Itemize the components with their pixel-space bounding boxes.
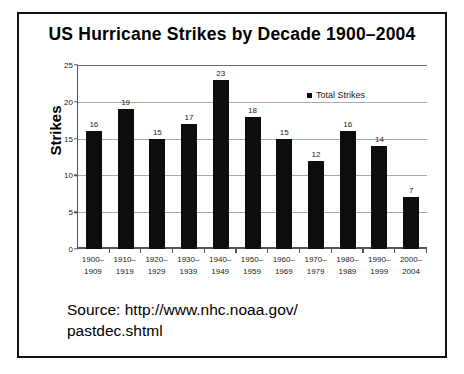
x-tick-mark [140,249,141,253]
x-tick-mark [267,249,268,253]
x-tick-mark [109,249,110,253]
x-tick-mark [394,249,395,253]
bars-layer: 161915172318151216147 [78,65,427,249]
bar[interactable] [403,197,419,249]
x-axis-label-line: 1989 [332,266,364,278]
x-axis-label-line: 1979 [300,266,332,278]
x-tick-mark [299,249,300,253]
bar[interactable] [371,146,387,249]
y-tick-label: 5 [69,208,73,217]
chart-figure: US Hurricane Strikes by Decade 1900–2004… [17,12,447,358]
x-axis-label-line: 1910– [109,254,141,266]
x-axis-label: 1950–1959 [236,254,268,277]
x-axis-label-line: 1959 [236,266,268,278]
bar-slot: 15 [268,65,300,249]
x-axis-labels: 1900–19091910–19191920–19291930–19391940… [77,254,427,277]
bar-slot: 12 [300,65,332,249]
bar-value-label: 12 [300,150,332,159]
x-axis-label-line: 1970– [300,254,332,266]
bar-value-label: 7 [395,186,427,195]
plot-area: 0510152025 161915172318151216147 [77,65,427,249]
x-axis-label: 1980–1989 [332,254,364,277]
source-caption: Source: http://www.nhc.noaa.gov/ pastdec… [67,299,407,341]
x-axis-label: 1910–1919 [109,254,141,277]
bar[interactable] [308,161,324,249]
bar-value-label: 16 [332,120,364,129]
bar-value-label: 23 [205,69,237,78]
chart-title: US Hurricane Strikes by Decade 1900–2004 [19,24,445,45]
bar-slot: 18 [237,65,269,249]
bar-slot: 15 [141,65,173,249]
x-axis-label-line: 1990– [363,254,395,266]
x-tick-mark [235,249,236,253]
bar-value-label: 15 [141,128,173,137]
x-tick-mark [172,249,173,253]
x-axis-label-line: 2004 [395,266,427,278]
x-axis-label-line: 1960– [268,254,300,266]
x-axis-label-line: 1980– [332,254,364,266]
bar-value-label: 15 [268,128,300,137]
x-axis-label-line: 1929 [141,266,173,278]
bar[interactable] [213,80,229,249]
x-axis-label-line: 1909 [77,266,109,278]
x-tick-mark [426,249,427,253]
bar-slot: 14 [364,65,396,249]
bar-value-label: 17 [173,113,205,122]
x-axis-label: 1930–1939 [172,254,204,277]
bar-slot: 7 [395,65,427,249]
x-axis-label-line: 1920– [141,254,173,266]
y-tick-label: 25 [64,61,73,70]
bar-value-label: 19 [110,98,142,107]
x-axis-label-line: 1950– [236,254,268,266]
x-axis-label: 1990–1999 [363,254,395,277]
x-axis-label-line: 1969 [268,266,300,278]
x-axis-label-line: 1949 [204,266,236,278]
x-axis-label-line: 1940– [204,254,236,266]
bar-slot: 16 [332,65,364,249]
bar[interactable] [149,139,165,249]
bar[interactable] [340,131,356,249]
x-axis-label-line: 1919 [109,266,141,278]
x-axis-label-line: 2000– [395,254,427,266]
x-axis-label-line: 1999 [363,266,395,278]
y-tick-label: 15 [64,134,73,143]
y-tick-label: 20 [64,97,73,106]
x-tick-mark [362,249,363,253]
x-tick-mark [331,249,332,253]
bar-slot: 19 [110,65,142,249]
x-axis-label: 1970–1979 [300,254,332,277]
source-line-1: Source: http://www.nhc.noaa.gov/ [67,299,407,320]
x-axis-label-line: 1900– [77,254,109,266]
bar[interactable] [181,124,197,249]
x-axis-label: 1900–1909 [77,254,109,277]
x-axis-label: 1960–1969 [268,254,300,277]
x-axis-label-line: 1930– [172,254,204,266]
bar[interactable] [118,109,134,249]
bar-value-label: 14 [364,135,396,144]
bar[interactable] [276,139,292,249]
y-axis-title: Strikes [47,91,64,171]
x-axis-label: 2000–2004 [395,254,427,277]
bar-slot: 16 [78,65,110,249]
bar-slot: 23 [205,65,237,249]
x-axis-label: 1940–1949 [204,254,236,277]
x-axis-label: 1920–1929 [141,254,173,277]
bar[interactable] [86,131,102,249]
source-line-2: pastdec.shtml [67,320,407,341]
bar[interactable] [245,117,261,249]
x-tick-mark [204,249,205,253]
y-tick-label: 0 [69,245,73,254]
bar-value-label: 16 [78,120,110,129]
bar-value-label: 18 [237,106,269,115]
y-tick-label: 10 [64,171,73,180]
x-axis-label-line: 1939 [172,266,204,278]
bar-slot: 17 [173,65,205,249]
